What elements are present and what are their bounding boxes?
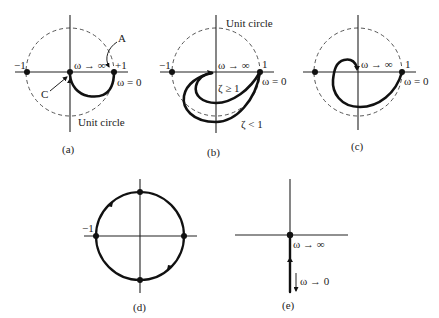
label-omega-inf: ω → ∞ xyxy=(218,59,250,71)
curve-zeta-lt-1 xyxy=(184,72,260,122)
caption-a: (a) xyxy=(62,143,75,156)
pointer-c-arrow-icon xyxy=(50,77,67,91)
point-minus-one xyxy=(312,69,318,75)
label-omega-inf: ω → ∞ xyxy=(361,58,393,70)
caption-b: (b) xyxy=(207,146,220,159)
label-zeta-lt-1: ζ < 1 xyxy=(241,118,263,131)
label-zeta-ge-1: ζ ≥ 1 xyxy=(218,82,240,95)
panel-d: −1 (d) xyxy=(82,179,197,314)
nyquist-curve xyxy=(70,72,114,97)
panel-c: 1 ω → ∞ ω = 0 (c) xyxy=(303,15,429,153)
label-omega-zero: ω = 0 xyxy=(117,76,142,88)
point-origin xyxy=(67,69,73,75)
label-omega-inf: ω → ∞ xyxy=(74,59,106,71)
label-minus-one: −1 xyxy=(14,59,26,71)
curve-arrow-icon xyxy=(287,257,293,262)
label-unit-circle: Unit circle xyxy=(226,17,273,29)
caption-c: (c) xyxy=(351,140,364,153)
panel-e: ω → ∞ ω → 0 (e) xyxy=(235,179,348,312)
point-minus-one xyxy=(93,233,99,239)
label-a: A xyxy=(118,32,126,44)
caption-d: (d) xyxy=(133,301,146,314)
label-omega-zero: ω = 0 xyxy=(262,75,287,87)
panel-a: −1 +1 ω → ∞ ω = 0 A C Unit circle (a) xyxy=(14,15,142,156)
label-plus-one: +1 xyxy=(115,59,127,71)
label-omega-zero: ω → 0 xyxy=(300,275,330,287)
label-one: 1 xyxy=(262,58,268,70)
label-omega-inf: ω → ∞ xyxy=(293,238,325,250)
nyquist-figure: −1 +1 ω → ∞ ω = 0 A C Unit circle (a) −1… xyxy=(0,0,439,318)
caption-e: (e) xyxy=(282,299,295,312)
label-one: 1 xyxy=(405,58,411,70)
label-unit-circle: Unit circle xyxy=(78,116,125,128)
panel-b: −1 1 ω → ∞ ω = 0 ζ ≥ 1 ζ < 1 Unit circle… xyxy=(159,15,287,159)
label-c: C xyxy=(41,88,48,100)
label-minus-one: −1 xyxy=(159,59,171,71)
curve-arrow-icon xyxy=(354,66,360,71)
point-top xyxy=(137,189,143,195)
label-omega-zero: ω = 0 xyxy=(404,75,429,87)
point-right xyxy=(181,233,187,239)
label-minus-one: −1 xyxy=(82,222,94,234)
point-bottom xyxy=(137,277,143,283)
